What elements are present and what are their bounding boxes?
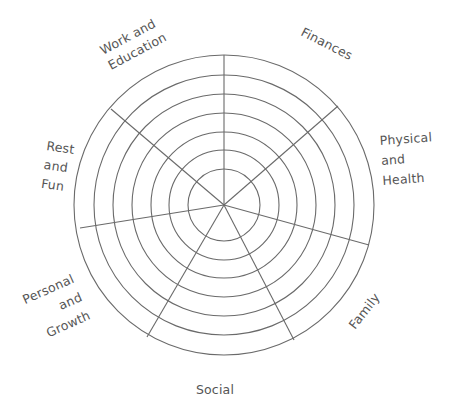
label-line: Physical — [379, 129, 432, 148]
segment-label-social: Social — [196, 382, 234, 397]
label-line: Rest — [46, 138, 76, 157]
label-line: Health — [382, 170, 425, 188]
label-line: Finances — [299, 24, 356, 63]
wheel-chart: FinancesPhysicalandHealthFamilySocialPer… — [0, 0, 454, 402]
spoke-7 — [111, 109, 224, 205]
spoke-2 — [224, 106, 338, 205]
segment-label-finances: Finances — [299, 24, 356, 63]
segment-label-physical-and-health: PhysicalandHealth — [379, 129, 435, 188]
label-line: Family — [346, 290, 384, 332]
label-line: Social — [196, 382, 234, 397]
spoke-5 — [147, 205, 224, 337]
label-line: and — [381, 151, 406, 168]
wheel-of-life-diagram: FinancesPhysicalandHealthFamilySocialPer… — [0, 0, 454, 402]
label-line: Fun — [40, 176, 65, 194]
segment-label-personal-and-growth: PersonalandGrowth — [20, 271, 92, 344]
segment-label-family: Family — [346, 290, 384, 332]
spoke-4 — [224, 205, 294, 340]
label-line: Growth — [44, 308, 93, 341]
segment-label-work-and-education: Work andEducation — [97, 14, 169, 72]
segment-label-rest-and-fun: RestandFun — [40, 138, 75, 194]
label-line: and — [43, 157, 69, 175]
spoke-6 — [80, 205, 224, 228]
